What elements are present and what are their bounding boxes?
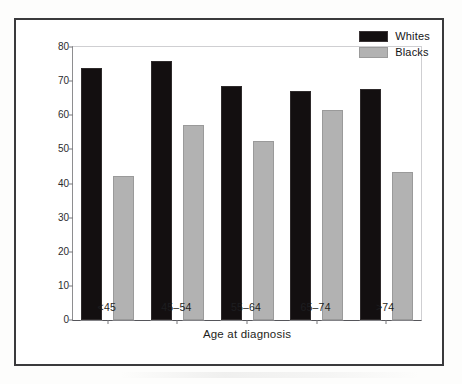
y-axis-tick-mark — [69, 217, 73, 218]
bar-whites-<45 — [81, 68, 102, 320]
y-axis-tick-label: 60 — [33, 110, 69, 120]
y-axis-tick-mark — [69, 149, 73, 150]
bar-whites->74 — [360, 89, 381, 320]
x-axis-tick-label: 55–64 — [231, 301, 261, 313]
legend: Whites Blacks — [357, 28, 432, 64]
x-axis-title: Age at diagnosis — [72, 328, 422, 340]
y-axis-tick-mark — [69, 251, 73, 252]
scanned-page: Percent survival 01020304050607080 Age a… — [0, 0, 462, 384]
y-axis-tick-label: 40 — [33, 179, 69, 189]
y-axis-tick-label: 20 — [33, 247, 69, 257]
bar-blacks-45–54 — [183, 125, 204, 320]
y-axis-tick-label: 0 — [33, 315, 69, 325]
legend-swatch-blacks — [359, 47, 388, 58]
legend-label-whites: Whites — [395, 30, 430, 42]
y-axis-tick-label: 70 — [33, 76, 69, 86]
x-axis-tick-label: 45–54 — [161, 301, 191, 313]
x-axis-tick-mark — [177, 320, 178, 324]
x-axis-tick-mark — [107, 320, 108, 324]
bar-chart: Percent survival 01020304050607080 Age a… — [16, 20, 442, 364]
bar-whites-55–64 — [221, 86, 242, 320]
figure-frame: Percent survival 01020304050607080 Age a… — [14, 18, 444, 366]
bar-blacks-<45 — [113, 176, 134, 320]
y-axis-tick-mark — [69, 285, 73, 286]
legend-item: Whites — [359, 30, 430, 42]
scan-artifact — [120, 372, 420, 378]
legend-item: Blacks — [359, 46, 430, 58]
x-axis-tick-label: 65–74 — [300, 301, 330, 313]
y-axis-tick-mark — [69, 81, 73, 82]
x-axis-tick-mark — [316, 320, 317, 324]
bar-whites-45–54 — [151, 61, 172, 320]
x-axis-tick-mark — [386, 320, 387, 324]
bar-whites-65–74 — [290, 91, 311, 320]
y-axis-tick-label: 10 — [33, 281, 69, 291]
x-axis-tick-mark — [247, 320, 248, 324]
legend-label-blacks: Blacks — [395, 46, 429, 58]
plot-area: 01020304050607080 — [72, 46, 422, 321]
x-axis-tick-label: >74 — [376, 301, 394, 313]
bar-blacks->74 — [392, 172, 413, 320]
y-axis-tick-mark — [69, 183, 73, 184]
y-axis-tick-label: 30 — [33, 213, 69, 223]
y-axis-tick-mark — [69, 115, 73, 116]
x-axis-tick-label: <45 — [98, 301, 116, 313]
bar-blacks-65–74 — [322, 110, 343, 320]
bar-blacks-55–64 — [253, 141, 274, 320]
y-axis-tick-mark — [69, 320, 73, 321]
legend-swatch-whites — [359, 31, 388, 42]
y-axis-tick-mark — [69, 47, 73, 48]
y-axis-tick-label: 50 — [33, 144, 69, 154]
y-axis-tick-label: 80 — [33, 42, 69, 52]
